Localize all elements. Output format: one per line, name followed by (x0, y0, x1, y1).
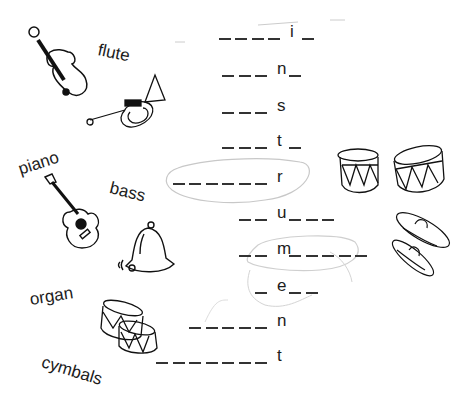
blank-dash[interactable] (239, 75, 251, 77)
blank-dash[interactable] (156, 362, 168, 364)
blank-dash[interactable] (206, 362, 218, 364)
blank-dash[interactable] (302, 38, 314, 40)
blank-dash[interactable] (239, 183, 251, 185)
blank-dash[interactable] (173, 362, 185, 364)
given-letter: n (277, 312, 286, 330)
blank-dash[interactable] (222, 327, 234, 329)
puzzle-row: n (0, 312, 469, 332)
blank-dash[interactable] (268, 38, 280, 40)
blank-dash[interactable] (289, 292, 301, 294)
blank-dash[interactable] (322, 219, 334, 221)
puzzle-row: t (0, 347, 469, 367)
puzzle-row: e (0, 277, 469, 297)
blank-dash[interactable] (289, 255, 301, 257)
blank-dash[interactable] (222, 183, 234, 185)
blank-dash[interactable] (222, 75, 234, 77)
blank-dash[interactable] (239, 219, 251, 221)
blank-dash[interactable] (255, 327, 267, 329)
given-letter: e (277, 277, 286, 295)
trumpet-icon (85, 70, 175, 140)
blank-dash[interactable] (255, 255, 267, 257)
blank-dash[interactable] (289, 147, 301, 149)
blank-dash[interactable] (255, 219, 267, 221)
given-letter: n (277, 60, 286, 78)
blank-dash[interactable] (289, 75, 301, 77)
blank-dash[interactable] (255, 75, 267, 77)
blank-dash[interactable] (339, 255, 351, 257)
blank-dash[interactable] (306, 219, 318, 221)
blank-dash[interactable] (206, 183, 218, 185)
blank-dash[interactable] (222, 362, 234, 364)
blank-dash[interactable] (239, 255, 251, 257)
blank-dash[interactable] (322, 255, 334, 257)
blank-dash[interactable] (255, 147, 267, 149)
blank-dash[interactable] (235, 38, 247, 40)
blank-dash[interactable] (306, 255, 318, 257)
drums-right-icon (338, 145, 458, 200)
blank-dash[interactable] (189, 362, 201, 364)
given-letter: s (277, 97, 286, 115)
blank-dash[interactable] (306, 292, 318, 294)
given-letter: u (277, 204, 286, 222)
blank-dash[interactable] (255, 292, 267, 294)
guitar-icon (40, 172, 110, 252)
blank-dash[interactable] (255, 362, 267, 364)
blank-dash[interactable] (289, 219, 301, 221)
given-letter: t (277, 132, 282, 150)
blank-dash[interactable] (219, 38, 231, 40)
blank-dash[interactable] (239, 327, 251, 329)
blank-dash[interactable] (255, 112, 267, 114)
given-letter: t (277, 347, 282, 365)
drums-icon (95, 298, 165, 358)
blank-dash[interactable] (239, 362, 251, 364)
blank-dash[interactable] (173, 183, 185, 185)
blank-dash[interactable] (252, 38, 264, 40)
given-letter: r (277, 168, 283, 186)
blank-dash[interactable] (222, 147, 234, 149)
violin-icon (24, 22, 94, 102)
blank-dash[interactable] (189, 327, 201, 329)
bell-icon (118, 218, 178, 278)
blank-dash[interactable] (206, 327, 218, 329)
cymbals-icon (385, 210, 455, 280)
blank-dash[interactable] (239, 147, 251, 149)
blank-dash[interactable] (222, 112, 234, 114)
given-letter: i (290, 23, 294, 41)
blank-dash[interactable] (255, 183, 267, 185)
blank-dash[interactable] (355, 255, 367, 257)
blank-dash[interactable] (239, 112, 251, 114)
blank-dash[interactable] (189, 183, 201, 185)
